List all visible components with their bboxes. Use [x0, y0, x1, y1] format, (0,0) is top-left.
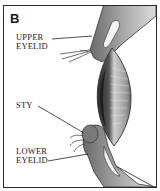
lower-eyelid-leader-line: [48, 154, 88, 161]
upper-eyelid-label-line2: EYELID: [16, 42, 48, 51]
sty-label: STY: [16, 101, 33, 110]
upper-eyelid-label: UPPER EYELID: [16, 33, 48, 51]
sty-leader-line: [38, 106, 84, 133]
figure-frame: B UPPER EYELID STY LOWER EYELID: [3, 5, 157, 188]
lower-eyelid-label: LOWER EYELID: [16, 147, 48, 165]
upper-eyelid-leader-line: [52, 36, 92, 39]
lower-eyelid-label-line2: EYELID: [16, 156, 48, 165]
sty-bump: [82, 125, 98, 143]
panel-letter: B: [10, 11, 19, 26]
upper-eyelid-drawing: [60, 6, 156, 62]
